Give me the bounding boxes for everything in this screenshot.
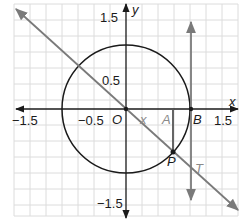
label-t: T: [195, 161, 204, 176]
label-segment-x: x: [139, 112, 147, 127]
label-a: A: [161, 112, 171, 127]
label-o: O: [112, 112, 122, 127]
y-tick-neg-1-5: −1.5: [97, 196, 123, 211]
point-b: [189, 107, 193, 111]
point-o: [124, 107, 128, 111]
x-tick-neg-0-5: −0.5: [78, 113, 104, 128]
unit-circle-diagram: 1.5 0.5 −1.5 −1.5 −0.5 1.5 y x O x A B P…: [0, 0, 244, 222]
y-tick-0-5: 0.5: [102, 73, 120, 88]
label-p: P: [167, 154, 176, 169]
x-axis-label: x: [228, 94, 236, 109]
label-b: B: [193, 112, 202, 127]
x-tick-1-5: 1.5: [214, 113, 232, 128]
y-tick-1-5: 1.5: [100, 10, 118, 25]
x-tick-neg-1-5: −1.5: [12, 113, 38, 128]
